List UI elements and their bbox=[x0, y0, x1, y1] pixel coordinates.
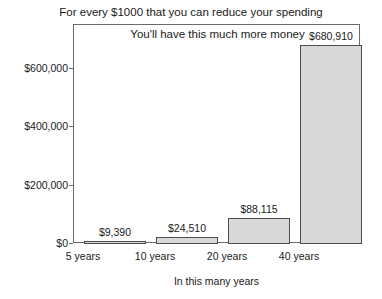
bar-value-40-years: $680,910 bbox=[292, 30, 370, 42]
y-tick-label-600000: $600,000 bbox=[0, 63, 68, 74]
x-tick-label-40-years: 40 years bbox=[260, 250, 338, 262]
bars-layer: $9,390 $24,510 $88,115 $680,910 bbox=[74, 25, 361, 244]
bar-40-years[interactable] bbox=[300, 45, 362, 244]
plot-area: You'll have this much more money $9,390 … bbox=[73, 24, 360, 243]
x-axis-title: In this many years bbox=[73, 275, 360, 287]
bar-10-years[interactable] bbox=[156, 237, 218, 244]
y-tick-label-200000: $200,000 bbox=[0, 180, 68, 191]
bar-20-years[interactable] bbox=[228, 218, 290, 244]
y-tick-label-0: $0 bbox=[0, 238, 68, 249]
x-tick-label-5-years: 5 years bbox=[44, 250, 122, 262]
bar-value-5-years: $9,390 bbox=[76, 226, 154, 238]
bar-5-years[interactable] bbox=[84, 241, 146, 244]
bar-value-10-years: $24,510 bbox=[148, 222, 226, 234]
y-tick-label-400000: $400,000 bbox=[0, 121, 68, 132]
bar-chart: For every $1000 that you can reduce your… bbox=[0, 0, 382, 299]
bar-value-20-years: $88,115 bbox=[220, 203, 298, 215]
y-tick-mark-0 bbox=[69, 243, 73, 244]
x-tick-label-20-years: 20 years bbox=[188, 250, 266, 262]
x-tick-label-10-years: 10 years bbox=[116, 250, 194, 262]
